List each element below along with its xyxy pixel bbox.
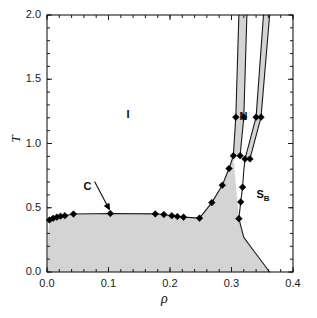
ytick-label-0: 0.0	[8, 265, 41, 277]
region-label-smectic-b: SB	[256, 188, 269, 203]
ytick-label-3: 1.5	[8, 72, 41, 84]
xtick-label-2: 0.2	[152, 277, 188, 289]
shaded-regions	[47, 15, 270, 272]
xtick-label-1: 0.1	[91, 277, 127, 289]
xtick-label-0: 0.0	[29, 277, 65, 289]
region-label-critical-point: C	[84, 180, 92, 192]
region-label-nematic: N	[240, 110, 248, 122]
smectic-b-subscript: B	[264, 194, 270, 203]
data-marker	[237, 199, 244, 206]
ytick-label-4: 2.0	[8, 8, 41, 20]
plot-canvas	[0, 0, 317, 318]
xtick-label-3: 0.3	[214, 277, 250, 289]
y-axis-title: T	[8, 135, 24, 142]
region-label-isotropic: I	[126, 108, 129, 120]
ytick-label-1: 0.5	[8, 201, 41, 213]
smectic-b-main: S	[256, 188, 263, 200]
arrow-head	[104, 203, 109, 209]
x-axis-title: ρ	[161, 291, 168, 307]
shaded-nematic-right-band	[245, 15, 270, 159]
phase-diagram-figure: 0.0 0.5 1.0 1.5 2.0 0.0 0.1 0.2 0.3 0.4 …	[0, 0, 317, 318]
critical-point-arrow	[95, 182, 110, 210]
xtick-label-4: 0.4	[275, 277, 311, 289]
data-marker	[239, 184, 246, 191]
